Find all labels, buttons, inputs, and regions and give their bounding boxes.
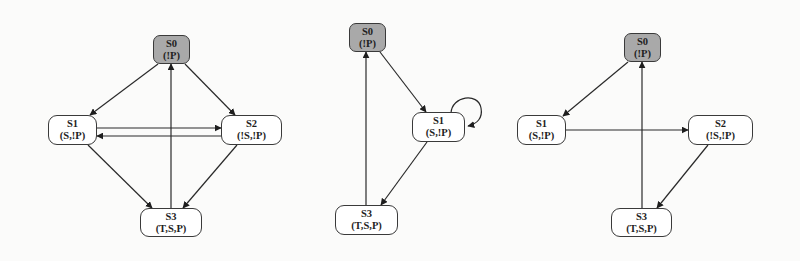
state-name: S3	[165, 211, 176, 223]
diagram-middle-node-s0: S0 (!P)	[349, 23, 386, 52]
edges-layer	[0, 0, 800, 261]
state-label: (!P)	[359, 38, 376, 50]
state-diagrams-canvas: S0 (!P) S1 (S,!P) S2 (!S,!P) S3 (T,S,P) …	[0, 0, 800, 261]
diagram-right-node-s1: S1 (S,!P)	[517, 115, 566, 145]
diagram-left-node-s1: S1 (S,!P)	[48, 115, 97, 145]
diagram-left-edges	[88, 64, 237, 208]
state-name: S0	[637, 36, 648, 48]
state-label: (S,!P)	[529, 130, 554, 142]
diagram-left-node-s2: S2 (!S,!P)	[221, 115, 282, 145]
edge-s2-to-s3	[657, 145, 708, 208]
state-name: S2	[715, 118, 726, 130]
edge-s1-to-s3	[88, 145, 152, 208]
edge-s0-to-s2	[185, 64, 235, 115]
state-name: S0	[166, 38, 177, 50]
state-label: (S,!P)	[426, 127, 451, 139]
edge-s2-to-s3	[183, 145, 237, 208]
state-name: S1	[536, 118, 547, 130]
diagram-right-edges	[563, 62, 708, 208]
diagram-middle-node-s1: S1 (S,!P)	[412, 112, 465, 142]
edge-s0-to-s1	[380, 52, 426, 112]
edge-s1-to-s3	[381, 142, 427, 205]
state-name: S3	[361, 208, 372, 220]
diagram-left-node-s0: S0 (!P)	[153, 35, 190, 64]
edge-s0-to-s1	[563, 62, 628, 116]
state-label: (!P)	[634, 48, 651, 60]
edge-s0-to-s1	[90, 64, 158, 115]
state-label: (!S,!P)	[237, 130, 266, 142]
state-label: (T,S,P)	[156, 223, 187, 235]
diagram-right-node-s0: S0 (!P)	[624, 33, 661, 62]
state-label: (!S,!P)	[706, 130, 735, 142]
state-name: S0	[362, 26, 373, 38]
state-label: (T,S,P)	[351, 220, 382, 232]
state-label: (T,S,P)	[626, 223, 657, 235]
diagram-middle-node-s3: S3 (T,S,P)	[335, 205, 398, 235]
state-name: S1	[433, 115, 444, 127]
state-name: S2	[246, 118, 257, 130]
state-label: (!P)	[163, 50, 180, 62]
state-label: (S,!P)	[60, 130, 85, 142]
state-name: S3	[636, 211, 647, 223]
diagram-right-node-s3: S3 (T,S,P)	[611, 208, 672, 237]
state-name: S1	[67, 118, 78, 130]
diagram-right-node-s2: S2 (!S,!P)	[688, 115, 753, 145]
diagram-left-node-s3: S3 (T,S,P)	[140, 208, 202, 237]
